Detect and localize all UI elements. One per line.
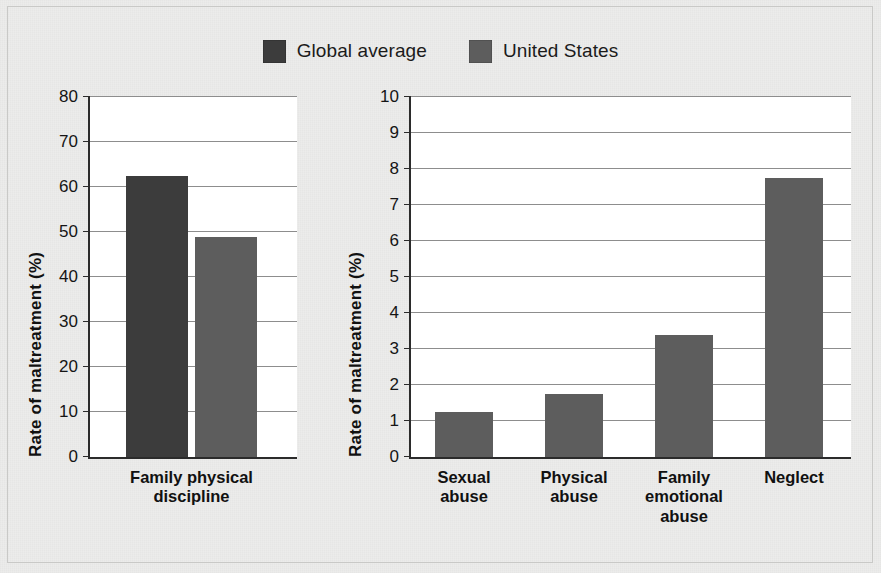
chart-panel-right: Rate of maltreatment (%) 012345678910 Se… xyxy=(330,0,881,573)
y-axis-tick-label: 2 xyxy=(357,375,399,395)
y-axis-tick-label: 1 xyxy=(357,411,399,431)
y-axis-tick-label: 80 xyxy=(36,87,78,107)
gridline xyxy=(411,132,851,133)
gridline xyxy=(90,276,297,277)
gridline xyxy=(90,321,297,322)
y-axis-tick-label: 7 xyxy=(357,195,399,215)
x-axis-category-label: Physical abuse xyxy=(519,468,629,507)
bar-united-states-2 xyxy=(655,335,713,457)
y-axis-tick xyxy=(404,384,411,385)
y-axis-tick-label: 60 xyxy=(36,177,78,197)
y-axis-tick xyxy=(83,186,90,187)
bar-united-states-0 xyxy=(195,237,257,457)
figure-background: Global average United States Rate of mal… xyxy=(0,0,881,573)
y-axis-tick-label: 4 xyxy=(357,303,399,323)
chart-panel-left: Rate of maltreatment (%) 010203040506070… xyxy=(0,0,330,573)
y-axis-tick xyxy=(404,240,411,241)
y-axis-tick-label: 0 xyxy=(357,447,399,467)
gridline xyxy=(411,168,851,169)
plot-area-left xyxy=(88,97,297,459)
y-axis-tick xyxy=(404,312,411,313)
y-axis-tick-label: 6 xyxy=(357,231,399,251)
x-axis-category-label: Sexual abuse xyxy=(409,468,519,507)
y-axis-tick-label: 0 xyxy=(36,447,78,467)
bar-united-states-3 xyxy=(765,178,823,457)
y-axis-tick-label: 70 xyxy=(36,132,78,152)
y-axis-tick xyxy=(83,366,90,367)
gridline xyxy=(90,231,297,232)
gridline xyxy=(90,366,297,367)
y-axis-tick-label: 30 xyxy=(36,312,78,332)
y-axis-tick xyxy=(404,456,411,457)
gridline xyxy=(90,141,297,142)
y-axis-tick-label: 20 xyxy=(36,357,78,377)
y-axis-tick xyxy=(404,204,411,205)
gridline xyxy=(411,96,851,97)
y-axis-tick xyxy=(83,141,90,142)
gridline xyxy=(90,186,297,187)
y-axis-tick xyxy=(404,348,411,349)
x-axis-category-label: Neglect xyxy=(739,468,849,487)
y-axis-tick xyxy=(83,276,90,277)
x-axis-category-label: Family physical discipline xyxy=(88,468,295,507)
y-axis-tick xyxy=(404,96,411,97)
y-axis-tick xyxy=(83,96,90,97)
bar-united-states-1 xyxy=(545,394,603,457)
y-axis-tick xyxy=(404,420,411,421)
y-axis-tick-label: 10 xyxy=(36,402,78,422)
y-axis-tick xyxy=(404,168,411,169)
y-axis-tick-label: 10 xyxy=(357,87,399,107)
y-axis-tick xyxy=(404,132,411,133)
y-axis-tick-label: 50 xyxy=(36,222,78,242)
gridline xyxy=(90,96,297,97)
y-axis-tick xyxy=(83,456,90,457)
y-axis-tick-label: 9 xyxy=(357,123,399,143)
gridline xyxy=(90,411,297,412)
y-axis-tick xyxy=(83,321,90,322)
y-axis-tick xyxy=(83,411,90,412)
y-axis-tick xyxy=(404,276,411,277)
x-axis-category-label: Family emotional abuse xyxy=(629,468,739,526)
y-axis-tick-label: 8 xyxy=(357,159,399,179)
bar-united-states-0 xyxy=(435,412,493,457)
y-axis-tick-label: 3 xyxy=(357,339,399,359)
bar-global-average-0 xyxy=(126,176,188,457)
y-axis-tick xyxy=(83,231,90,232)
y-axis-tick-label: 5 xyxy=(357,267,399,287)
y-axis-tick-label: 40 xyxy=(36,267,78,287)
